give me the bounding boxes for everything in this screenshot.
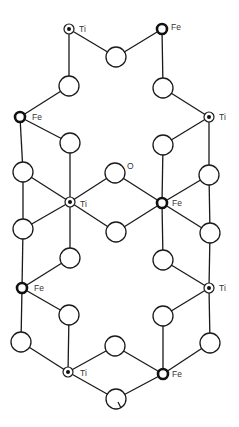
oxygen-atom [153, 78, 173, 98]
titanium-dot-icon [68, 200, 72, 204]
iron-label: Fe [32, 112, 42, 122]
oxygen-atoms-layer [11, 47, 220, 409]
ilmenite-structure-diagram: TiTiTiTiTiFeFeFeFeFeO [0, 0, 239, 427]
iron-label: Fe [34, 283, 44, 293]
titanium-label: Ti [219, 283, 226, 293]
iron-atoms-layer [15, 24, 168, 379]
iron-label: Fe [171, 22, 181, 32]
oxygen-atom [11, 332, 31, 352]
oxygen-atom [59, 76, 79, 96]
titanium-dot-icon [207, 115, 211, 119]
oxygen-atom [60, 133, 80, 153]
oxygen-atom [13, 219, 33, 239]
titanium-label: Ti [219, 112, 226, 122]
iron-atom [157, 24, 167, 34]
iron-atom [15, 112, 25, 122]
oxygen-atom [106, 389, 126, 409]
titanium-label: Ti [80, 199, 87, 209]
titanium-dot-icon [66, 370, 70, 374]
oxygen-atom [106, 47, 126, 67]
iron-atom [157, 198, 167, 208]
oxygen-atom [153, 135, 173, 155]
titanium-dot-icon [207, 286, 211, 290]
oxygen-atom [13, 162, 33, 182]
iron-atom [158, 369, 168, 379]
oxygen-atom [59, 305, 79, 325]
oxygen-atom [199, 165, 219, 185]
oxygen-atom [200, 333, 220, 353]
oxygen-atom [105, 163, 125, 183]
oxygen-atom [153, 306, 173, 326]
oxygen-atom [106, 222, 126, 242]
oxygen-atom [105, 336, 125, 356]
iron-atom [17, 283, 27, 293]
iron-label: Fe [172, 369, 182, 379]
oxygen-atom [60, 248, 80, 268]
labels-layer: TiTiTiTiTiFeFeFeFeFeO [32, 22, 226, 379]
titanium-dot-icon [67, 27, 71, 31]
oxygen-atom [200, 223, 220, 243]
titanium-label: Ti [80, 368, 87, 378]
titanium-label: Ti [79, 24, 86, 34]
iron-label: Fe [172, 198, 182, 208]
oxygen-atom [153, 250, 173, 270]
oxygen-label: O [127, 161, 134, 171]
